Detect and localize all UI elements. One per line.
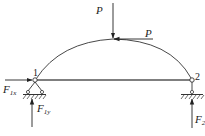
diagram-canvas <box>0 0 205 136</box>
label-f1y: F1y <box>37 103 50 116</box>
label-f1y-sub: 1y <box>44 108 51 116</box>
label-f2-main: F <box>195 113 202 125</box>
label-p-vertical: P <box>96 5 103 16</box>
label-f2: F2 <box>195 114 205 127</box>
label-node-1: 1 <box>33 68 38 78</box>
arch-member <box>36 39 191 79</box>
label-f1x-main: F <box>3 83 10 95</box>
support-1-triangle <box>28 82 42 91</box>
support-1-roller-left <box>26 90 29 93</box>
support-2-roller <box>190 90 193 93</box>
support-2-hatch <box>181 95 204 99</box>
label-f2-sub: 2 <box>202 119 205 127</box>
arch-diagram: P P 1 2 F1x F1y F2 <box>0 0 205 136</box>
label-p-horizontal: P <box>145 28 152 39</box>
label-f1x-sub: 1x <box>10 89 17 97</box>
node-2-hinge <box>190 78 194 82</box>
label-f1x: F1x <box>3 84 16 97</box>
label-f1y-main: F <box>37 102 44 114</box>
label-node-2: 2 <box>195 72 200 82</box>
support-1-roller-right <box>40 90 43 93</box>
support-1-hatch <box>23 95 46 99</box>
node-1-hinge <box>33 78 37 82</box>
